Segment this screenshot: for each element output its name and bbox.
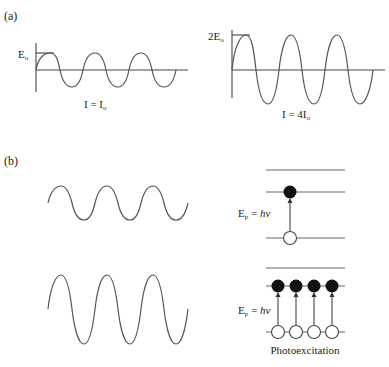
panel-a-label: (a) <box>4 9 17 23</box>
high-amplitude-wave <box>48 275 188 344</box>
electron-transition <box>308 280 321 339</box>
caption: Photoexcitation <box>270 344 340 356</box>
energy-levels-multiple: Ep = hν Photoexcitation <box>238 268 345 356</box>
low-amplitude-wave <box>48 186 188 220</box>
panel-b-label: (b) <box>4 154 18 168</box>
hole-icon <box>284 232 297 245</box>
electron-transition <box>326 280 339 339</box>
wave-plot-high-intensity: 2Eo I = 4Io <box>208 30 385 122</box>
electron-transition <box>290 280 303 339</box>
wave-plot-low-intensity: Eo I = Io <box>18 43 188 112</box>
excited-electron-icon <box>284 186 297 199</box>
intensity-label: I = 4Io <box>282 108 311 122</box>
intensity-label: I = Io <box>84 98 107 112</box>
amplitude-label: Eo <box>18 48 29 62</box>
arrow-head-icon <box>288 198 293 203</box>
photoexcitation-diagram: (a) Eo I = Io 2Eo I = 4Io (b) Ep = hν <box>0 0 389 367</box>
amplitude-label: 2Eo <box>208 30 224 44</box>
photon-energy-label: Ep = hν <box>238 304 270 318</box>
photon-energy-label: Ep = hν <box>238 207 270 221</box>
electron-transition <box>272 280 285 339</box>
energy-levels-single: Ep = hν <box>238 170 345 245</box>
